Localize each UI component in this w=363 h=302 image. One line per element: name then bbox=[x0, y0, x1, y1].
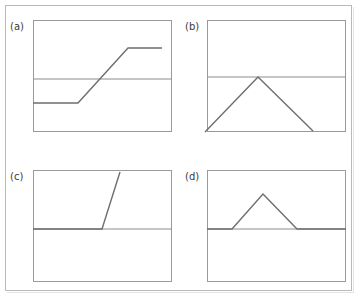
panel-d-plot-box bbox=[208, 171, 346, 282]
panel-a-label: (a) bbox=[10, 22, 24, 32]
panel-b-label: (b) bbox=[185, 22, 199, 32]
panel-d-plot bbox=[200, 164, 352, 292]
panel-b-plot-box bbox=[208, 21, 346, 132]
panel-b-plot bbox=[200, 14, 352, 142]
panel-c-label: (c) bbox=[10, 172, 23, 182]
panel-a-plot bbox=[28, 14, 180, 142]
panel-d-label: (d) bbox=[185, 172, 199, 182]
panel-c-plot bbox=[28, 164, 180, 292]
figure-root: (a) (b) (c) (d) bbox=[0, 0, 363, 302]
